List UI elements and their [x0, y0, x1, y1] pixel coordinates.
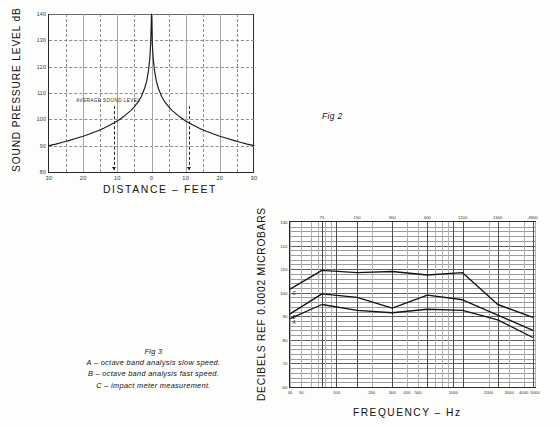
- fig3-caption-line-c: C – impact meter measurement.: [46, 380, 261, 391]
- fig2-y-tick: 90: [40, 143, 46, 149]
- figure-sheet: 80901001101201301403020100102030 AVERAGE…: [0, 0, 560, 427]
- fig2-y-axis-title: SOUND PRESSURE LEVEL dB: [11, 7, 22, 172]
- fig3-gridline-v: [535, 222, 536, 387]
- fig3-y-tick: 60: [283, 385, 288, 390]
- fig3-y-tick: 70: [283, 361, 288, 366]
- fig3-x-tick-bottom: 3000: [504, 390, 513, 395]
- fig3-x-tick-top: 600: [424, 215, 431, 220]
- fig3-x-tick-bottom: 4000: [519, 390, 528, 395]
- fig3-plot-area: 6070809010011012013040501002003004005001…: [289, 221, 536, 388]
- fig3-y-tick: 120: [280, 243, 287, 248]
- fig2-tag-label: Fig 2: [322, 111, 343, 121]
- fig3-x-tick-top: 300: [389, 215, 396, 220]
- fig3-y-tick: 130: [280, 220, 287, 225]
- fig2-x-tick: 10: [114, 175, 121, 181]
- fig2-x-tick: 20: [80, 175, 87, 181]
- fig2-curve: [49, 14, 254, 172]
- fig3-x-axis-title: FREQUENCY – Hz: [353, 407, 462, 418]
- fig2-x-tick: 10: [182, 175, 189, 181]
- fig3-x-tick-top: 1200: [458, 215, 467, 220]
- fig3-y-tick: 110: [281, 267, 288, 272]
- fig2-arrowhead-right-icon: [187, 167, 191, 170]
- fig3-x-tick-top: 4800: [528, 215, 537, 220]
- fig2-y-tick: 120: [37, 64, 46, 70]
- fig3-caption-line-b: B – octave band analysis fast speed.: [46, 368, 261, 379]
- fig2-arrowhead-left-icon: [112, 167, 116, 170]
- fig3-x-tick-bottom: 300: [389, 390, 396, 395]
- fig2-plot-area: 80901001101201301403020100102030 AVERAGE…: [48, 14, 254, 173]
- fig3-curve-label-B: B: [293, 315, 296, 320]
- fig3-x-tick-bottom: 200: [368, 390, 375, 395]
- fig2-y-tick: 100: [37, 116, 46, 122]
- fig2-y-tick: 140: [37, 11, 46, 17]
- figure-2: 80901001101201301403020100102030 AVERAGE…: [0, 0, 300, 205]
- fig3-x-tick-top: 2400: [493, 215, 502, 220]
- fig3-x-tick-bottom: 2000: [484, 390, 493, 395]
- fig3-y-tick: 80: [283, 337, 288, 342]
- fig3-x-tick-top: 75: [320, 215, 325, 220]
- fig3-y-tick: 90: [283, 314, 288, 319]
- fig3-curve-label-C: C: [293, 291, 296, 296]
- fig3-caption: Fig 3 A – octave band analysis slow spee…: [46, 346, 261, 391]
- fig2-x-tick: 30: [251, 175, 258, 181]
- fig2-arrow-left-shaft: [114, 106, 115, 170]
- fig3-x-tick-top: 150: [354, 215, 361, 220]
- fig3-series-A: [290, 305, 533, 338]
- fig3-x-tick-bottom: 40: [288, 390, 293, 395]
- fig3-caption-line-a: A – octave band analysis slow speed.: [46, 357, 261, 368]
- fig2-x-tick: 20: [216, 175, 223, 181]
- fig3-x-tick-bottom: 50: [299, 390, 304, 395]
- fig3-caption-tag: Fig 3: [46, 346, 261, 357]
- fig2-y-tick: 130: [37, 37, 46, 43]
- figure-3: 6070809010011012013040501002003004005001…: [243, 205, 560, 427]
- fig3-x-tick-bottom: 500: [415, 390, 422, 395]
- fig2-y-tick: 110: [37, 90, 46, 96]
- fig3-x-tick-bottom: 5000: [530, 390, 539, 395]
- fig2-x-tick: 30: [46, 175, 53, 181]
- fig3-x-tick-bottom: 400: [403, 390, 410, 395]
- fig3-x-tick-bottom: 1000: [449, 390, 458, 395]
- fig3-y-tick: 100: [280, 290, 287, 295]
- fig3-curve-label-A: A: [293, 320, 296, 325]
- fig3-series-B: [290, 294, 533, 331]
- fig3-y-axis-title: DECIBELS REF 0.0002 MICROBARS: [256, 207, 267, 401]
- fig3-curves: [290, 222, 535, 387]
- fig3-x-tick-bottom: 100: [333, 390, 340, 395]
- fig2-x-axis-title: DISTANCE – FEET: [103, 184, 217, 195]
- fig2-average-level-label: AVERAGE SOUND LEVEL: [76, 98, 140, 103]
- fig2-x-tick: 0: [150, 175, 153, 181]
- fig2-arrow-right-shaft: [189, 106, 190, 170]
